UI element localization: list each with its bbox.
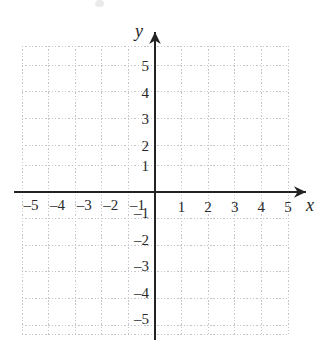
y-tick-label--2: –2: [115, 233, 149, 248]
y-tick-label-5: 5: [120, 59, 149, 74]
x-tick-label-1: 1: [169, 200, 194, 215]
x-tick-label--4: –4: [45, 198, 71, 213]
y-tick-label--5: –5: [115, 312, 149, 327]
coordinate-grid-graphic: [0, 0, 330, 344]
y-tick-label--1: –1: [115, 206, 149, 221]
coordinate-plane-figure: y x –5 –4 –3 –2 –1 1 2 3 4 5 5 4 3 2 1 –…: [0, 0, 330, 344]
y-tick-label--3: –3: [115, 259, 149, 274]
y-tick-label-3: 3: [120, 112, 149, 127]
x-tick-label-4: 4: [249, 200, 274, 215]
y-tick-label--4: –4: [115, 286, 149, 301]
x-tick-label--3: –3: [71, 198, 97, 213]
y-axis-line: [149, 32, 161, 340]
y-tick-label-2: 2: [120, 139, 149, 154]
x-tick-label-3: 3: [222, 200, 247, 215]
y-tick-label-4: 4: [120, 86, 149, 101]
x-tick-label--5: –5: [18, 198, 44, 213]
y-axis-label: y: [135, 22, 143, 40]
x-axis-label: x: [306, 196, 314, 214]
x-tick-label-5: 5: [275, 200, 300, 215]
x-tick-label-2: 2: [196, 200, 221, 215]
y-tick-label-1: 1: [120, 159, 149, 174]
